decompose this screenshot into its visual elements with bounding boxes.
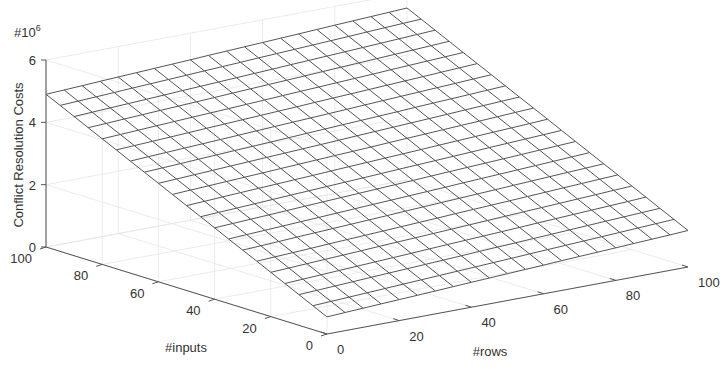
inputs-tick-label: 80	[74, 268, 88, 283]
mesh-line-inputs	[187, 119, 548, 205]
rows-tick	[321, 332, 327, 334]
mesh-line-inputs	[257, 175, 618, 261]
mesh-line-inputs	[130, 75, 491, 161]
z-exponent-label: #106	[14, 23, 41, 40]
inputs-tick	[321, 334, 327, 336]
mesh-line-inputs	[299, 208, 660, 294]
rows-tick	[610, 278, 616, 280]
mesh-line-inputs	[116, 64, 477, 150]
rows-tick	[682, 265, 688, 267]
inputs-tick	[96, 264, 102, 266]
inputs-tick	[209, 299, 215, 301]
z-tick-label: 6	[29, 53, 36, 68]
surface-chart: 0246020406080100020406080100 Conflict Re…	[0, 0, 727, 369]
inputs-tick-label: 100	[10, 251, 32, 266]
inputs-tick	[265, 317, 271, 319]
rows-tick-label: 100	[698, 275, 720, 290]
rows-tick	[393, 319, 399, 321]
rows-tick	[465, 305, 471, 307]
mesh-line-inputs	[102, 53, 463, 139]
rows-tick-label: 60	[554, 302, 568, 317]
inputs-tick-label: 60	[130, 286, 144, 301]
mesh-line-inputs	[60, 19, 421, 105]
inputs-tick-label: 0	[306, 338, 313, 353]
inputs-tick	[152, 282, 158, 284]
z-tick-label: 4	[29, 115, 36, 130]
mesh-line-inputs	[74, 30, 435, 116]
z-axis-title: Conflict Resolution Costs	[11, 82, 26, 228]
rows-tick-label: 20	[409, 329, 423, 344]
rows-tick	[538, 292, 544, 294]
mesh-line-inputs	[285, 197, 646, 283]
rows-tick-label: 40	[481, 315, 495, 330]
grid-line-rows	[407, 180, 688, 267]
grid-line-inputs	[158, 215, 519, 282]
inputs-axis-line	[46, 247, 327, 334]
z-exponent-base: #10	[14, 25, 36, 40]
mesh-line-inputs	[201, 130, 562, 216]
inputs-tick-label: 40	[186, 303, 200, 318]
mesh-line-inputs	[88, 41, 449, 127]
rows-tick-label: 0	[337, 342, 344, 357]
mesh-line-inputs	[215, 142, 576, 228]
mesh-line-inputs	[158, 97, 519, 183]
rows-tick-label: 80	[626, 288, 640, 303]
z-exponent-power: 6	[36, 23, 41, 33]
mesh-line-inputs	[313, 219, 674, 305]
x-axis-title: #rows	[473, 344, 508, 359]
mesh-line-inputs	[46, 8, 407, 94]
inputs-tick-label: 20	[242, 321, 256, 336]
mesh-line-inputs	[144, 86, 505, 172]
y-axis-title: #inputs	[165, 340, 207, 355]
z-tick-label: 2	[29, 178, 36, 193]
